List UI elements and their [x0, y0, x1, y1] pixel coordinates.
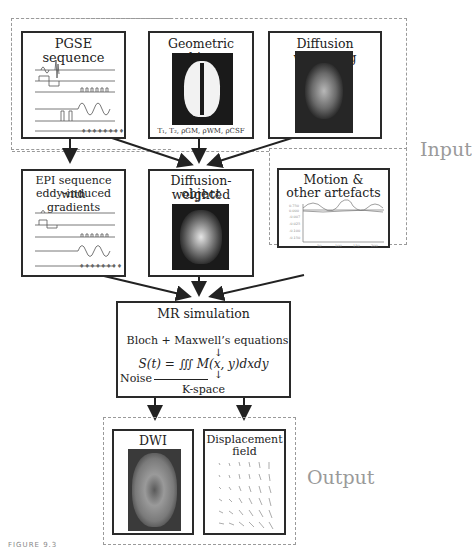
fa-map-image: [295, 51, 353, 133]
tissue-params: T₁, T₂, ρGM, ρWM, ρCSF: [150, 127, 252, 135]
brain-segmentation-image: [172, 53, 233, 125]
noise-arrow: [154, 379, 208, 380]
svg-text:-0.007: -0.007: [289, 215, 300, 219]
epi-waveform-diagram: ♦♦♦♦♦♦♦♦: [23, 171, 128, 279]
displacement-field-box: Displacement field: [203, 429, 286, 535]
svg-text:0.000: 0.000: [289, 209, 299, 213]
svg-text:150: 150: [353, 244, 360, 248]
bloch-maxwell-text: Bloch + Maxwell’s equations: [126, 334, 289, 347]
svg-text:-0.025: -0.025: [289, 222, 300, 226]
mr-sim-title: MR simulation: [118, 307, 289, 321]
svg-text:♦♦♦♦♦♦♦♦: ♦♦♦♦♦♦♦♦: [81, 127, 124, 134]
pgse-sequence-box: PGSE sequence ♦♦♦♦♦♦♦♦: [21, 31, 126, 139]
kspace-label: K-space: [118, 383, 289, 396]
displacement-vector-field: [205, 431, 288, 537]
output-label: Output: [307, 466, 374, 488]
svg-text:200: 200: [371, 244, 378, 248]
motion-artefacts-box: Motion & other artefacts 0.750 0.000 -0.…: [277, 168, 390, 248]
svg-text:♦♦♦♦♦♦♦♦: ♦♦♦♦♦♦♦♦: [79, 262, 122, 269]
motion-plot: 0.750 0.000 -0.007 -0.025 -0.100 -0.150 …: [279, 170, 392, 250]
dwi-title: DWI: [114, 434, 192, 448]
dwi-box: DWI: [112, 429, 194, 535]
geometric-object-box: Geometric object T₁, T₂, ρGM, ρWM, ρCSF: [148, 31, 254, 139]
signal-equation: S(t) = ∭ M(x, y)dxdy: [118, 357, 289, 371]
svg-text:-0.100: -0.100: [289, 229, 300, 233]
svg-text:100: 100: [335, 244, 342, 248]
pgse-waveform-diagram: ♦♦♦♦♦♦♦♦: [23, 33, 128, 141]
dw-brain-image: [172, 204, 229, 270]
svg-text:-0.150: -0.150: [289, 236, 300, 240]
epi-sequence-box: EPI sequence with eddy-induced gradients…: [21, 169, 126, 277]
mr-simulation-box: MR simulation Bloch + Maxwell’s equation…: [116, 301, 291, 398]
down-arrow-2: ↓: [214, 369, 222, 380]
figure-caption: FIGURE 9.3: [8, 541, 57, 549]
dwi-brain-image: [128, 449, 181, 531]
diffusion-weighting-box: Diffusion weighting: [268, 31, 382, 139]
svg-text:50: 50: [317, 244, 321, 248]
diffusion-weighted-object-box: Diffusion-weighted object: [148, 169, 254, 277]
dw-object-title-line2: object: [150, 187, 252, 201]
svg-text:0.750: 0.750: [289, 204, 299, 208]
